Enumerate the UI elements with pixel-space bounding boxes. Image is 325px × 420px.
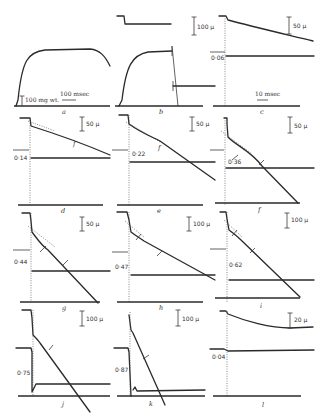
panel-b: 100 μ b [115,16,215,116]
length-scale-label: 100 μ [86,315,103,323]
length-scale-label: 50 μ [294,122,308,130]
length-scale-label: 100 μ [291,216,308,224]
panel-label-i: i [260,302,262,310]
panel-i: 100 μ 0·62 i [210,212,314,310]
panel-g: 50 μ 0·44 g [13,213,110,312]
panel-h: 100 μ 0·47 h [112,212,215,312]
panel-e: 50 μ f 0·22 e [112,115,215,215]
panel-l: 20 μ 0·04 l [210,311,314,409]
length-scale-label: 50 μ [86,220,100,228]
load-value-h: 0·47 [115,263,129,270]
panel-label-b: b [159,108,163,116]
panel-label-l: l [262,401,264,409]
length-scale-label: 100 μ [182,315,199,323]
panel-a: 100 mg wt. 100 msec a [14,49,110,116]
load-value-e: 0·22 [132,150,146,157]
panel-label-d: d [61,207,65,215]
panel-label-e: e [157,207,161,215]
panel-label-f: f [257,206,262,214]
panel-d: 50 μ f 0·14 d [13,117,110,215]
panel-k: 100 μ 0·87 k [114,310,205,408]
length-scale-label: 20 μ [294,316,308,324]
load-value-d: 0·14 [14,154,28,161]
length-scale-label: 100 μ [197,23,214,31]
panel-j: 100 μ 0·75 j [16,310,110,412]
time-scale-label: 10 msec [255,90,281,97]
length-scale-label: 50 μ [86,120,100,128]
panel-label-j: j [60,400,64,408]
load-value-g: 0·44 [14,258,28,265]
load-value-k: 0·87 [115,366,129,373]
panel-label-k: k [149,400,153,408]
length-scale-label: 50 μ [196,120,210,128]
time-scale-label: 100 msec [60,90,90,97]
panel-label-a: a [62,108,66,116]
panel-f: 50 μ 0·36 f [210,117,314,214]
load-value-i: 0·62 [229,261,243,268]
load-value-j: 0·75 [17,369,31,376]
panel-label-h: h [159,304,163,312]
length-scale-label: 50 μ [293,22,307,30]
load-value-c: 0·06 [211,54,225,61]
load-value-l: 0·04 [212,353,226,360]
force-scale-label: 100 mg wt. [25,96,59,104]
panel-c: 50 μ 0·06 10 msec c [210,16,314,116]
length-scale-label: 100 μ [193,220,210,228]
load-value-f: 0·36 [228,158,242,165]
oscilloscope-figure: 100 mg wt. 100 msec a 100 μ b 50 μ 0·06 … [0,0,325,420]
panel-label-c: c [260,108,264,116]
svg-text:f: f [157,144,162,152]
panel-label-g: g [62,304,66,312]
